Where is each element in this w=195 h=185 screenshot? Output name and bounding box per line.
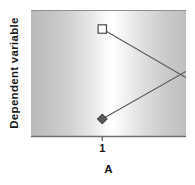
series-line-open-square-series xyxy=(102,29,186,119)
y-axis-label: Dependent variable xyxy=(8,17,20,129)
data-point-marker xyxy=(97,114,107,124)
plot-panel xyxy=(31,10,186,136)
interaction-plot-figure: Dependent variable 1 2 A xyxy=(0,0,195,185)
data-point-marker xyxy=(98,25,106,33)
plot-series-layer xyxy=(31,11,186,136)
x-axis-label: A xyxy=(31,163,186,175)
series-line-filled-diamond-series xyxy=(102,31,186,119)
x-tick-label-1: 1 xyxy=(87,142,117,154)
y-axis-label-container: Dependent variable xyxy=(0,10,28,136)
